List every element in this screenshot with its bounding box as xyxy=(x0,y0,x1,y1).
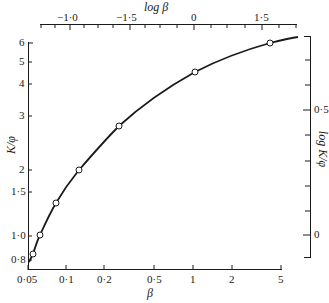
bottom-tick-label: 2 xyxy=(229,274,235,285)
data-point xyxy=(267,40,273,46)
top-tick-label: 1·5 xyxy=(254,12,269,23)
right-axis-ticks xyxy=(303,37,311,258)
fitted-curve xyxy=(29,37,298,262)
left-tick-label: 1·0 xyxy=(11,230,26,241)
left-tick-label: 4 xyxy=(19,78,25,89)
data-point xyxy=(76,167,82,173)
data-points xyxy=(30,40,273,257)
bottom-tick-label: 5 xyxy=(278,274,284,285)
bottom-tick-label: 0·2 xyxy=(97,274,112,285)
right-axis-title: log K/φ xyxy=(317,124,329,174)
bottom-axis-title: β xyxy=(147,287,153,299)
chart: log β −1·0 −1·5 0 1·5 6 5 4 3 2 1·5 1·0 … xyxy=(0,0,329,303)
top-tick-label: −1·0 xyxy=(57,12,78,23)
left-tick-label: 5 xyxy=(19,56,25,67)
left-tick-label: 6 xyxy=(19,37,25,48)
bottom-tick-label: 0·5 xyxy=(147,274,162,285)
chart-plot xyxy=(0,0,329,303)
left-tick-label: 1·5 xyxy=(11,186,26,197)
data-point xyxy=(37,232,43,238)
left-axis-title: K/φ xyxy=(5,131,17,159)
left-tick-label: 0·8 xyxy=(11,254,26,265)
left-tick-label: 2 xyxy=(19,164,25,175)
bottom-tick-label: 1 xyxy=(190,274,196,285)
data-point xyxy=(116,123,122,129)
left-tick-label: 3 xyxy=(19,110,25,121)
data-point xyxy=(53,200,59,206)
bottom-tick-label: 0·05 xyxy=(17,274,37,285)
data-point xyxy=(30,251,36,257)
top-axis-title: log β xyxy=(144,1,168,13)
data-point xyxy=(192,69,198,75)
right-tick-label: 0 xyxy=(314,229,320,240)
bottom-tick-label: 0·1 xyxy=(59,274,74,285)
right-tick-label: 0·5 xyxy=(314,104,329,115)
top-tick-label: −1·5 xyxy=(116,12,137,23)
top-tick-label: 0 xyxy=(191,12,197,23)
